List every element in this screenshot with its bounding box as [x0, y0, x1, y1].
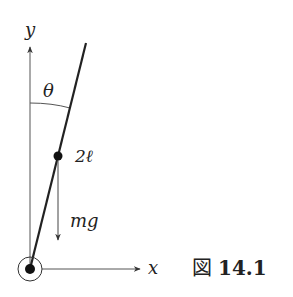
pivot-dot	[25, 264, 35, 274]
force-label: mg	[70, 210, 99, 231]
center-of-mass-dot	[54, 152, 63, 161]
figure-caption: 図14.1	[192, 252, 267, 281]
y-axis-label: y	[24, 19, 36, 40]
theta-label: θ	[43, 80, 54, 101]
x-axis-label: x	[148, 257, 158, 278]
figure-caption-number: 14.1	[218, 256, 267, 280]
figure-caption-prefix: 図	[192, 256, 212, 280]
length-label: 2ℓ	[74, 146, 93, 166]
angle-arc	[30, 103, 70, 108]
